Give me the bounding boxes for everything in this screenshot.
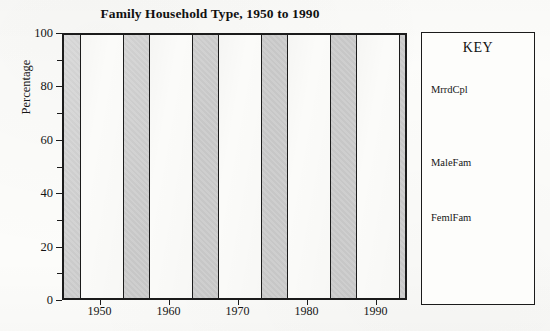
y-tick-label-40: 40 <box>41 186 54 201</box>
legend-key-box: KEY MrrdCplMaleFamFemlFam <box>421 32 535 305</box>
legend-entry-malefam: MaleFam <box>431 157 471 168</box>
bar-fill <box>81 33 123 298</box>
y-tick-label-100: 100 <box>34 26 53 41</box>
x-tick-label-1990: 1990 <box>364 304 388 319</box>
x-axis: 19501960197019801990 <box>62 300 407 328</box>
x-tick-label-1950: 1950 <box>88 304 112 319</box>
y-tick-label-0: 0 <box>47 293 53 308</box>
plot-background <box>64 35 405 298</box>
legend-title: KEY <box>422 40 534 56</box>
y-axis: 020406080100 <box>0 33 62 300</box>
bar-fill <box>288 33 330 298</box>
bar-1960 <box>149 33 193 298</box>
bar-fill <box>357 33 399 298</box>
bar-1950 <box>80 33 124 298</box>
y-tick-label-20: 20 <box>41 239 54 254</box>
bar-1990 <box>356 33 400 298</box>
bar-fill <box>219 33 261 298</box>
x-tick-label-1980: 1980 <box>295 304 319 319</box>
x-tick-label-1970: 1970 <box>226 304 250 319</box>
bar-1970 <box>218 33 262 298</box>
legend-entry-femlfam: FemlFam <box>431 212 471 223</box>
x-tick-label-1960: 1960 <box>157 304 181 319</box>
chart-page: Family Household Type, 1950 to 1990 Perc… <box>0 0 550 331</box>
page-title: Family Household Type, 1950 to 1990 <box>0 6 420 22</box>
legend-entry-mrrdcpl: MrrdCpl <box>431 84 468 95</box>
y-tick-label-60: 60 <box>41 132 54 147</box>
plot-area <box>62 33 407 300</box>
bar-fill <box>150 33 192 298</box>
bar-1980 <box>287 33 331 298</box>
y-tick-label-80: 80 <box>41 79 54 94</box>
